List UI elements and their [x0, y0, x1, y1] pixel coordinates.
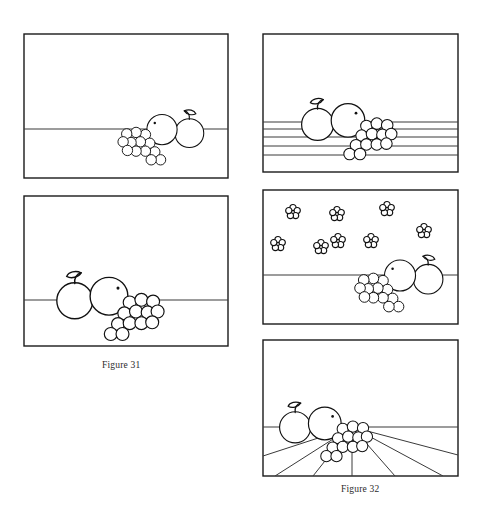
panel-top-left — [24, 34, 228, 178]
figure-31-caption: Figure 31 — [102, 360, 140, 370]
panel-middle-right — [263, 190, 458, 324]
figure-32-caption: Figure 32 — [341, 484, 379, 494]
panel-bottom-right — [263, 340, 458, 476]
panel-middle-left — [24, 196, 228, 346]
panel-top-right — [263, 34, 458, 172]
panel-frame — [24, 34, 228, 178]
plate-canvas — [0, 0, 477, 508]
drawing-plate: Figure 31 Figure 32 — [0, 0, 477, 508]
